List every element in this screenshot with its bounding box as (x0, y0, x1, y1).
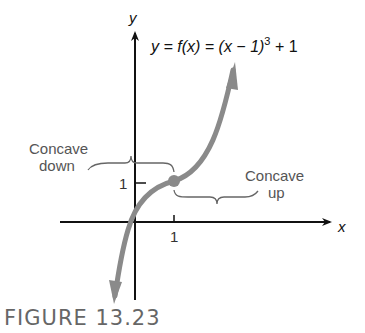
curve-arrow-top-icon (226, 62, 238, 90)
x-tick-label: 1 (170, 228, 178, 245)
concave-down-brace (88, 156, 174, 172)
y-axis-label: y (128, 9, 138, 26)
equation: y = f(x) = (x − 1)3 + 1 (150, 35, 298, 55)
y-tick-label: 1 (119, 175, 127, 192)
concave-down-label-1: Concave (29, 140, 88, 157)
figure-caption: FIGURE 13.23 (4, 306, 161, 330)
x-axis-label: x (337, 218, 346, 235)
concave-up-label-2: up (268, 184, 285, 201)
curve-arrow-bottom-icon (109, 280, 122, 304)
concave-up-label-1: Concave (245, 167, 304, 184)
concave-down-label-2: down (39, 157, 75, 174)
graph: y x 1 1 Concave down Concave up y = f(x)… (0, 0, 365, 333)
equation-main: y = f(x) = (x − 1) (150, 38, 264, 55)
equation-tail: + 1 (270, 38, 297, 55)
inflection-point (168, 175, 180, 187)
concave-up-brace (174, 190, 258, 204)
